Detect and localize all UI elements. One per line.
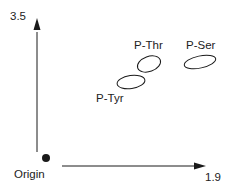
p-tyr-spot (116, 74, 146, 91)
p-tyr-label: P-Tyr (96, 93, 123, 105)
p-ser-label: P-Ser (186, 40, 215, 52)
origin-dot (42, 154, 50, 162)
phospho-amino-acid-diagram: 3.5 1.9 Origin P-Tyr P-Thr P-Ser (0, 0, 231, 187)
origin-label: Origin (14, 169, 45, 181)
x-axis-max-label: 1.9 (205, 172, 221, 184)
y-axis-arrow-icon (34, 18, 41, 30)
x-axis-arrow-icon (194, 163, 206, 170)
p-ser-spot (183, 53, 217, 71)
p-thr-spot (135, 53, 163, 75)
p-thr-label: P-Thr (134, 40, 163, 52)
y-axis-max-label: 3.5 (10, 11, 26, 23)
